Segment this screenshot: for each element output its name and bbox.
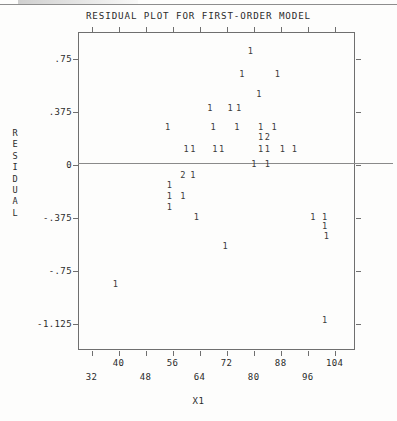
x-axis-tick-label: 56 (158, 358, 188, 368)
data-point-count: 1 (167, 203, 172, 212)
y-axis-tick-right (356, 112, 361, 113)
y-axis-tick-label: .375 (0, 107, 72, 117)
data-point-count: 1 (280, 145, 285, 154)
y-axis-tick-right (356, 218, 361, 219)
x-axis-tick-label: 48 (131, 372, 161, 382)
data-point-count: 1 (113, 280, 118, 289)
x-axis-tick-label: 96 (293, 372, 323, 382)
data-point-count: 1 (228, 104, 233, 113)
data-point-count: 1 (190, 145, 195, 154)
data-point-count: 1 (211, 123, 216, 132)
y-axis-tick-left (73, 165, 78, 166)
y-axis-tick-right (356, 324, 361, 325)
data-point-count: 1 (219, 145, 224, 154)
x-axis-tick-label: 88 (266, 358, 296, 368)
x-axis-tick-bottom (119, 351, 120, 356)
data-point-count: 1 (190, 171, 195, 180)
plot-frame (78, 32, 355, 350)
y-axis-tick-label: -.75 (0, 266, 72, 276)
data-point-count: 1 (258, 145, 263, 154)
data-point-count: 1 (222, 242, 227, 251)
x-axis-tick-top (281, 27, 282, 32)
x-axis-tick-label: 80 (239, 372, 269, 382)
data-point-count: 1 (265, 145, 270, 154)
x-axis-tick-label: 40 (104, 358, 134, 368)
x-axis-tick-top (254, 27, 255, 32)
x-axis-title: X1 (0, 396, 397, 406)
x-axis-tick-top (200, 27, 201, 32)
data-point-count: 1 (184, 145, 189, 154)
x-axis-tick-top (173, 27, 174, 32)
x-axis-tick-label: 32 (77, 372, 107, 382)
data-point-count: 1 (310, 213, 315, 222)
y-axis-title-letter: D (8, 174, 22, 185)
y-axis-title-letter: A (8, 196, 22, 207)
y-axis-tick-label: 0 (0, 160, 72, 170)
data-point-count: 2 (265, 133, 270, 142)
data-point-count: 1 (180, 192, 185, 201)
x-axis-tick-top (227, 27, 228, 32)
x-axis-tick-bottom (200, 351, 201, 356)
data-point-count: 1 (265, 160, 270, 169)
data-point-count: 2 (180, 171, 185, 180)
y-axis-tick-left (73, 271, 78, 272)
x-axis-tick-top (308, 27, 309, 32)
data-point-count: 1 (234, 123, 239, 132)
x-axis-tick-bottom (146, 351, 147, 356)
y-axis-tick-left (73, 324, 78, 325)
data-point-count: 1 (324, 232, 329, 241)
y-axis-tick-label: .75 (0, 54, 72, 64)
data-point-count: 1 (167, 192, 172, 201)
y-axis-tick-left (73, 218, 78, 219)
data-point-count: 1 (275, 70, 280, 79)
y-axis-tick-left (73, 112, 78, 113)
x-axis-tick-bottom (335, 351, 336, 356)
x-axis-tick-bottom (281, 351, 282, 356)
x-axis-tick-bottom (254, 351, 255, 356)
x-axis-tick-top (335, 27, 336, 32)
y-axis-tick-label: -1.125 (0, 319, 72, 329)
zero-reference-line (78, 163, 393, 164)
x-axis-tick-bottom (92, 351, 93, 356)
data-point-count: 1 (167, 181, 172, 190)
x-axis-tick-label: 72 (212, 358, 242, 368)
y-axis-tick-right (356, 59, 361, 60)
data-point-count: 1 (236, 104, 241, 113)
y-axis-title-letter: R (8, 128, 22, 139)
data-point-count: 1 (207, 104, 212, 113)
y-axis-tick-label: -.375 (0, 213, 72, 223)
x-axis-tick-label: 64 (185, 372, 215, 382)
data-point-count: 1 (322, 222, 327, 231)
data-point-count: 1 (194, 213, 199, 222)
x-axis-tick-top (119, 27, 120, 32)
data-point-count: 1 (248, 47, 253, 56)
y-axis-title: RESIDUAL (8, 128, 22, 219)
y-axis-tick-left (73, 59, 78, 60)
chart-title: RESIDUAL PLOT FOR FIRST-ORDER MODEL (0, 10, 397, 21)
data-point-count: 1 (212, 145, 217, 154)
residual-plot-figure: RESIDUAL PLOT FOR FIRST-ORDER MODEL RESI… (0, 0, 397, 421)
y-axis-title-letter: U (8, 185, 22, 196)
x-axis-tick-label: 104 (320, 358, 350, 368)
y-axis-tick-right (356, 271, 361, 272)
data-point-count: 1 (322, 316, 327, 325)
data-point-count: 1 (165, 123, 170, 132)
x-axis-tick-bottom (227, 351, 228, 356)
data-point-count: 1 (258, 133, 263, 142)
data-point-count: 1 (256, 90, 261, 99)
x-axis-tick-top (92, 27, 93, 32)
y-axis-tick-right (356, 165, 361, 166)
data-point-count: 1 (251, 160, 256, 169)
data-point-count: 1 (258, 123, 263, 132)
data-point-count: 1 (271, 123, 276, 132)
y-axis-title-letter: E (8, 139, 22, 150)
data-point-count: 1 (292, 145, 297, 154)
x-axis-tick-top (146, 27, 147, 32)
x-axis-tick-bottom (308, 351, 309, 356)
data-point-count: 1 (239, 70, 244, 79)
x-axis-tick-bottom (173, 351, 174, 356)
